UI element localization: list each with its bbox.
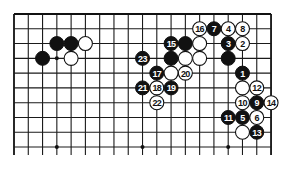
move-number: 8 (240, 24, 245, 34)
white-stone (78, 37, 92, 51)
move-number: 16 (195, 24, 204, 34)
white-stone (193, 51, 207, 65)
white-stone-move-22: 22 (150, 96, 164, 110)
stone-circle (64, 51, 78, 65)
move-number: 2 (240, 39, 245, 49)
black-stone-move-5: 5 (235, 110, 249, 124)
black-stone-move-19: 19 (164, 81, 178, 95)
black-stone-move-17: 17 (150, 66, 164, 80)
move-number: 13 (252, 128, 261, 138)
stone-circle (178, 51, 192, 65)
black-stone-move-11: 11 (221, 110, 235, 124)
black-stone-move-9: 9 (250, 96, 264, 110)
move-number: 5 (240, 113, 245, 123)
move-number: 21 (138, 83, 147, 93)
black-stone (221, 51, 235, 65)
white-stone (164, 66, 178, 80)
black-stone-move-7: 7 (207, 22, 221, 36)
white-stone (193, 37, 207, 51)
move-number: 11 (224, 113, 233, 123)
stone-circle (78, 37, 92, 51)
white-stone (178, 51, 192, 65)
black-stone-move-1: 1 (235, 66, 249, 80)
white-stone-move-2: 2 (235, 37, 249, 51)
white-stone-move-20: 20 (178, 66, 192, 80)
black-stone-move-15: 15 (164, 37, 178, 51)
move-number: 4 (226, 24, 231, 34)
stone-circle (193, 51, 207, 65)
move-number: 20 (181, 69, 190, 79)
stone-circle (178, 37, 192, 51)
star-point (141, 145, 145, 149)
stone-circle (64, 37, 78, 51)
black-stone-move-23: 23 (136, 51, 150, 65)
black-stone (50, 37, 64, 51)
stone-circle (221, 51, 235, 65)
black-stone (164, 51, 178, 65)
move-number: 9 (255, 98, 260, 108)
stone-circle (164, 66, 178, 80)
star-point (55, 145, 59, 149)
move-number: 19 (167, 83, 176, 93)
move-number: 3 (226, 39, 231, 49)
white-stone (235, 81, 249, 95)
move-number: 22 (152, 98, 161, 108)
black-stone-move-21: 21 (136, 81, 150, 95)
stone-circle (164, 51, 178, 65)
stone-circle (235, 125, 249, 139)
move-number: 12 (252, 83, 261, 93)
black-stone (64, 37, 78, 51)
stone-circle (193, 37, 207, 51)
black-stone-move-13: 13 (250, 125, 264, 139)
go-board-diagram: 1674815322317201211819122210914115613 (0, 0, 289, 171)
white-stone-move-8: 8 (235, 22, 249, 36)
move-number: 15 (167, 39, 176, 49)
stone-circle (235, 81, 249, 95)
white-stone-move-16: 16 (193, 22, 207, 36)
move-number: 10 (238, 98, 247, 108)
stone-circle (36, 51, 50, 65)
move-number: 18 (152, 83, 161, 93)
move-number: 6 (255, 113, 260, 123)
stone-circle (50, 37, 64, 51)
white-stone (64, 51, 78, 65)
move-number: 23 (138, 54, 147, 64)
white-stone-move-18: 18 (150, 81, 164, 95)
star-point (55, 56, 59, 60)
white-stone-move-10: 10 (235, 96, 249, 110)
white-stone-move-14: 14 (264, 96, 278, 110)
black-stone (178, 37, 192, 51)
black-stone (36, 51, 50, 65)
black-stone-move-3: 3 (221, 37, 235, 51)
white-stone-move-4: 4 (221, 22, 235, 36)
move-number: 17 (152, 69, 161, 79)
white-stone-move-12: 12 (250, 81, 264, 95)
white-stone (235, 125, 249, 139)
move-number: 7 (212, 24, 217, 34)
move-number: 1 (240, 69, 245, 79)
move-number: 14 (267, 98, 276, 108)
white-stone-move-6: 6 (250, 110, 264, 124)
star-point (226, 145, 230, 149)
